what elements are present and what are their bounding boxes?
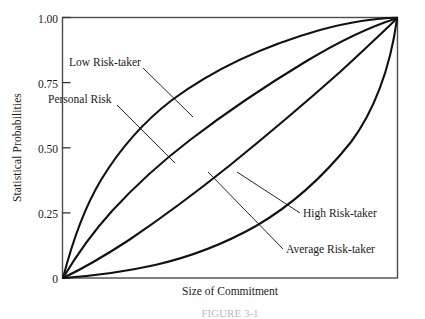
curve-label-high-risk-taker: High Risk-taker — [303, 208, 377, 220]
leader-lines — [117, 68, 300, 249]
y-tick-label-0.25: 0.25 — [30, 209, 58, 221]
leader-line-personal-risk — [117, 105, 175, 163]
figure-caption: FIGURE 3-1 — [62, 307, 398, 319]
curve-label-personal-risk: Personal Risk — [48, 94, 112, 106]
y-tick-label-0.50: 0.50 — [30, 144, 58, 156]
curve-label-low-risk-taker: Low Risk-taker — [69, 57, 141, 69]
x-axis-title: Size of Commitment — [62, 285, 398, 297]
leader-line-low-risk-taker — [143, 68, 193, 117]
y-axis-title: Statistical Probabilities — [8, 17, 26, 278]
leader-line-high-risk-taker — [237, 172, 300, 213]
leader-line-average-risk-taker — [208, 172, 283, 249]
y-tick-label-1.00: 1.00 — [30, 14, 58, 26]
curve-label-average-risk-taker: Average Risk-taker — [286, 244, 375, 256]
y-tick-label-0: 0 — [30, 274, 58, 286]
y-tick-label-0.75: 0.75 — [30, 79, 58, 91]
